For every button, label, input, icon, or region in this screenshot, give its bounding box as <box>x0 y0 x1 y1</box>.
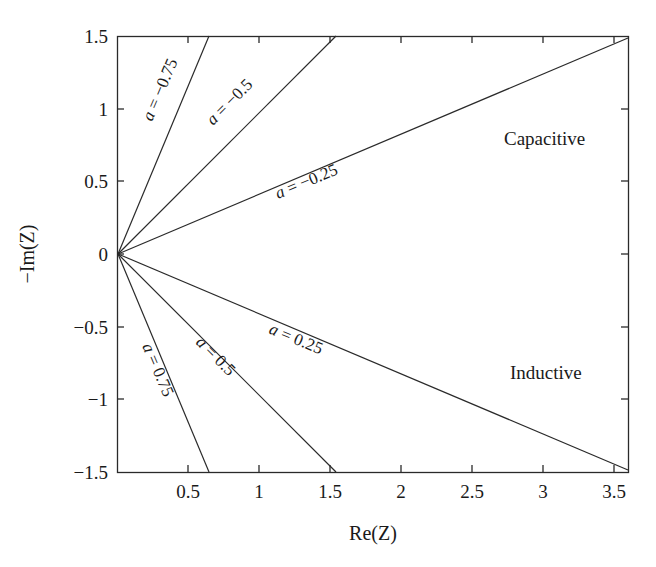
curve-label-a-neg-0-75: a = −0.75 <box>138 55 181 123</box>
x-tick-label: 2 <box>396 481 406 502</box>
y-tick-label: −1 <box>88 389 108 410</box>
curve-label-a-neg-0-5: a = −0.5 <box>202 75 256 129</box>
curve-label-value: 0.75 <box>149 365 178 400</box>
curve-labels: a = −0.75 a = −0.5 a = −0.25 a = 0.25 a … <box>138 55 340 399</box>
curve-label-a-pos-0-5: a = 0.5 <box>192 332 239 379</box>
curve-label-a-neg-0-25: a = −0.25 <box>272 160 340 203</box>
y-tick-label: 1 <box>99 99 109 120</box>
x-tick-label: 1.5 <box>318 481 342 502</box>
impedance-rays <box>118 36 628 472</box>
y-tick-label: −1.5 <box>74 462 108 483</box>
x-tick-label: 1 <box>254 481 264 502</box>
plot-frame <box>118 37 629 473</box>
y-tick-label: −0.5 <box>74 317 108 338</box>
y-tick-label: 0 <box>99 244 109 265</box>
ray-a-neg-0-5 <box>118 36 336 254</box>
y-tick-label: 0.5 <box>84 171 108 192</box>
x-axis-label: Re(Z) <box>349 522 397 545</box>
x-tick-label: 2.5 <box>460 481 484 502</box>
curve-label-value: −0.75 <box>149 55 182 99</box>
x-tick-label: 0.5 <box>176 481 200 502</box>
impedance-plot-figure: 0.5 1 1.5 2 2.5 3 3.5 1.5 1 0.5 0 −0.5 −… <box>0 0 656 567</box>
y-tick-label: 1.5 <box>84 26 108 47</box>
region-label-capacitive: Capacitive <box>504 128 585 149</box>
x-axis-ticks <box>188 36 614 472</box>
chart-canvas: 0.5 1 1.5 2 2.5 3 3.5 1.5 1 0.5 0 −0.5 −… <box>0 0 656 567</box>
curve-label-a-pos-0-75: a = 0.75 <box>138 340 178 399</box>
x-tick-label: 3 <box>538 481 548 502</box>
curve-label-a-pos-0-25: a = 0.25 <box>266 319 325 358</box>
y-axis-label: −Im(Z) <box>16 224 39 283</box>
curve-label-value: 0.25 <box>291 329 326 358</box>
x-tick-labels: 0.5 1 1.5 2 2.5 3 3.5 <box>176 481 626 502</box>
region-label-inductive: Inductive <box>510 362 582 383</box>
x-tick-label: 3.5 <box>602 481 626 502</box>
curve-label-value: −0.25 <box>297 160 341 193</box>
y-axis-ticks <box>117 109 628 399</box>
y-tick-labels: 1.5 1 0.5 0 −0.5 −1 −1.5 <box>74 26 108 483</box>
